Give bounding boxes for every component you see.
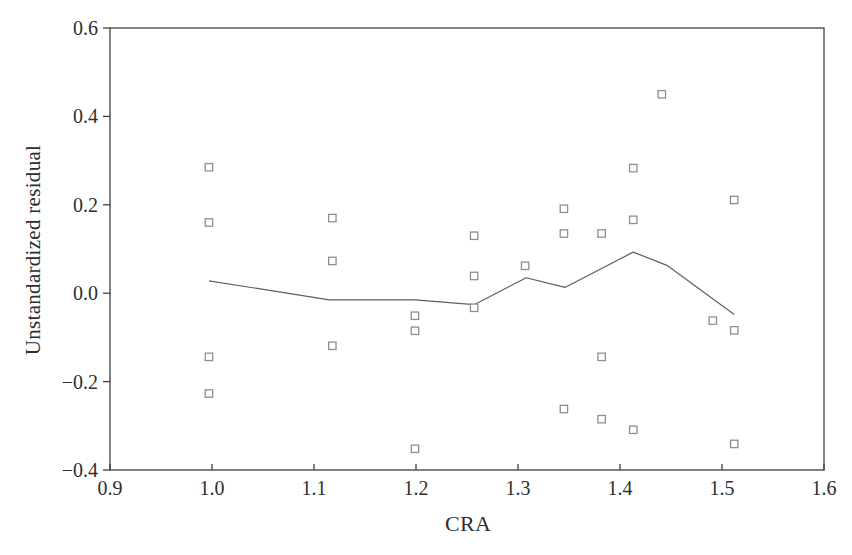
data-point-marker <box>630 216 637 223</box>
plot-canvas: 0.60.40.20.0−0.2−0.40.91.01.11.21.31.41.… <box>0 0 852 555</box>
data-point-marker <box>560 205 567 212</box>
y-tick-label: 0.4 <box>73 105 98 127</box>
data-point-marker <box>731 440 738 447</box>
x-tick-label: 1.5 <box>710 477 735 499</box>
data-point-marker <box>731 196 738 203</box>
x-tick-label: 1.4 <box>608 477 633 499</box>
residual-scatter-figure: 0.60.40.20.0−0.2−0.40.91.01.11.21.31.41.… <box>0 0 852 555</box>
data-point-marker <box>470 232 477 239</box>
data-point-marker <box>709 317 716 324</box>
data-point-marker <box>658 91 665 98</box>
data-point-marker <box>630 426 637 433</box>
x-tick-label: 1.2 <box>404 477 429 499</box>
data-point-marker <box>205 390 212 397</box>
data-point-marker <box>521 262 528 269</box>
y-axis-title: Unstandardized residual <box>21 145 46 355</box>
data-point-marker <box>205 353 212 360</box>
data-point-marker <box>598 353 605 360</box>
data-point-marker <box>470 272 477 279</box>
data-point-marker <box>560 405 567 412</box>
data-point-marker <box>470 304 477 311</box>
data-point-marker <box>329 257 336 264</box>
y-tick-label: −0.4 <box>62 459 98 481</box>
data-point-marker <box>411 445 418 452</box>
data-point-marker <box>630 164 637 171</box>
x-axis-title: CRA <box>445 511 491 537</box>
y-tick-label: −0.2 <box>62 371 98 393</box>
data-point-marker <box>329 214 336 221</box>
data-point-marker <box>205 164 212 171</box>
x-tick-label: 1.1 <box>302 477 327 499</box>
data-point-marker <box>598 230 605 237</box>
data-point-marker <box>411 312 418 319</box>
x-tick-label: 1.0 <box>200 477 225 499</box>
data-point-marker <box>598 415 605 422</box>
plot-frame <box>110 28 824 470</box>
x-tick-label: 1.3 <box>506 477 531 499</box>
y-tick-label: 0.6 <box>73 17 98 39</box>
data-point-marker <box>560 230 567 237</box>
data-point-marker <box>205 219 212 226</box>
y-tick-label: 0.2 <box>73 194 98 216</box>
data-point-marker <box>411 327 418 334</box>
data-point-marker <box>329 342 336 349</box>
x-tick-label: 1.6 <box>812 477 837 499</box>
y-tick-label: 0.0 <box>73 282 98 304</box>
x-tick-label: 0.9 <box>98 477 123 499</box>
data-point-marker <box>731 327 738 334</box>
